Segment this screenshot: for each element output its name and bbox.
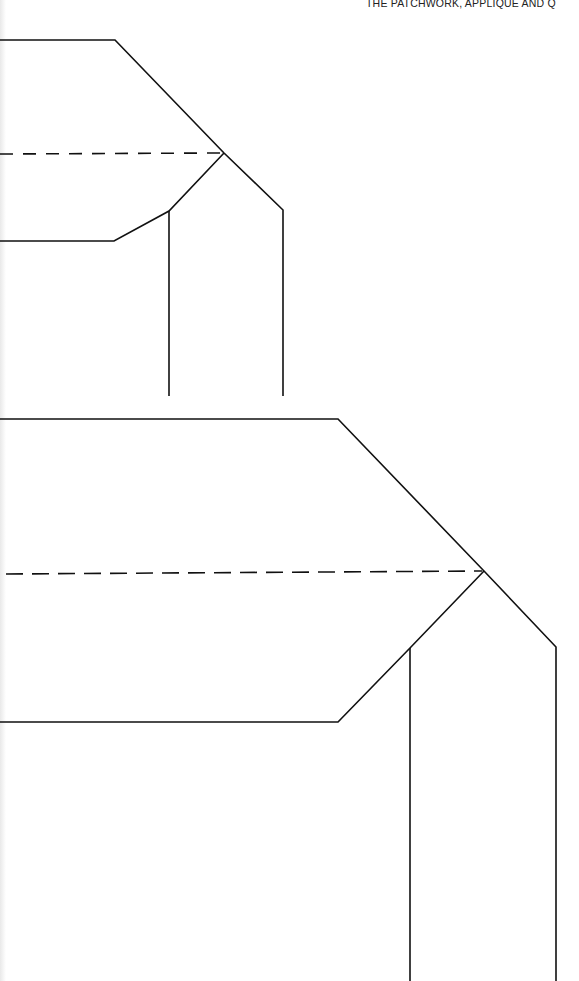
large-template-fold-line (6, 571, 482, 574)
large-template (0, 419, 556, 981)
small-template-lower-edge (0, 153, 224, 241)
large-template-outer-edge (0, 419, 556, 981)
small-template-fold-line (0, 153, 222, 154)
large-template-lower-edge (0, 571, 484, 722)
pattern-diagram (0, 0, 579, 981)
small-template-outer-edge (0, 40, 283, 396)
small-template (0, 40, 283, 396)
